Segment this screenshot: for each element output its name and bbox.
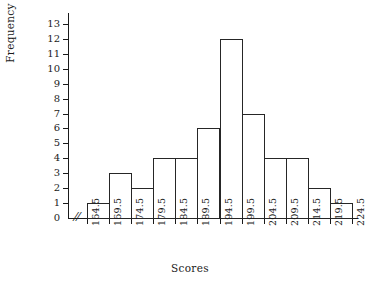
x-axis-tick-label: 209.5: [290, 198, 300, 226]
y-axis-tick: [63, 99, 68, 100]
y-axis-tick-label: 9: [38, 79, 60, 89]
x-axis-tick: [153, 219, 154, 224]
y-axis-tick-label: 11: [38, 49, 60, 59]
x-axis-title: Scores: [0, 262, 380, 274]
x-axis-tick-label: 199.5: [246, 198, 256, 226]
y-axis-tick-label: 12: [38, 34, 60, 44]
y-axis-tick: [63, 203, 68, 204]
y-axis-tick-label: 10: [38, 64, 60, 74]
x-axis-tick-label: 189.5: [201, 198, 211, 226]
x-axis-tick-label: 194.5: [224, 198, 234, 226]
x-axis-tick: [131, 219, 132, 224]
y-axis-tick-label: 4: [38, 153, 60, 163]
x-axis-tick-label: 184.5: [179, 198, 189, 226]
y-axis-tick: [63, 143, 68, 144]
y-axis-tick: [63, 69, 68, 70]
y-axis-tick-label: 8: [38, 94, 60, 104]
y-axis-tick-label: 1: [38, 198, 60, 208]
y-axis-tick: [63, 24, 68, 25]
y-axis-tick-label: 5: [38, 138, 60, 148]
x-axis-tick-label: 169.5: [113, 198, 123, 226]
y-axis-tick-label: 3: [38, 168, 60, 178]
x-axis-tick: [286, 219, 287, 224]
y-axis-tick: [63, 39, 68, 40]
x-axis-tick: [330, 219, 331, 224]
x-axis-tick: [87, 219, 88, 224]
histogram-bar: [220, 39, 243, 219]
x-axis-tick: [109, 219, 110, 224]
y-axis-tick: [63, 114, 68, 115]
y-axis-tick-label: 6: [38, 123, 60, 133]
x-axis-tick: [264, 219, 265, 224]
x-axis-tick-label: 219.5: [334, 198, 344, 226]
y-axis-title: Frequency: [4, 0, 16, 78]
x-axis-tick-label: 214.5: [312, 198, 322, 226]
y-axis-tick: [63, 54, 68, 55]
x-axis-tick-label: 204.5: [268, 198, 278, 226]
y-axis-tick-label: 2: [38, 183, 60, 193]
y-axis-tick-label: 0: [38, 213, 60, 223]
y-axis-tick: [63, 173, 68, 174]
y-axis-tick-label: 7: [38, 109, 60, 119]
x-axis-tick: [197, 219, 198, 224]
x-axis-tick-label: 174.5: [135, 198, 145, 226]
y-axis-line: [68, 13, 69, 219]
x-axis-break-icon: //: [72, 211, 81, 222]
x-axis-tick: [220, 219, 221, 224]
x-axis-tick: [352, 219, 353, 224]
x-axis-tick-label: 179.5: [157, 198, 167, 226]
y-axis-tick: [63, 128, 68, 129]
x-axis-tick: [308, 219, 309, 224]
x-axis-tick-label: 164.5: [91, 198, 101, 226]
y-axis-tick: [63, 188, 68, 189]
y-axis-tick: [63, 84, 68, 85]
y-axis-tick: [63, 158, 68, 159]
x-axis-tick: [242, 219, 243, 224]
x-axis-tick: [175, 219, 176, 224]
histogram-figure: Frequency Scores //012345678910111213164…: [0, 0, 380, 283]
x-axis-tick-label: 224.5: [356, 198, 366, 226]
y-axis-tick-label: 13: [38, 19, 60, 29]
